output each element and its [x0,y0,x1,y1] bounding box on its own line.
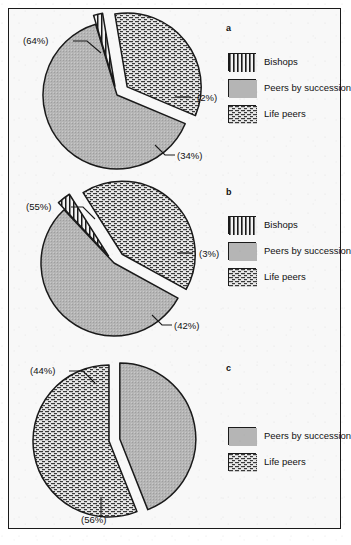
legend-item-life_peers[interactable]: Life peers [228,453,351,471]
swatch-bishops-icon [229,54,257,72]
swatch-peers_by_succession-icon [229,80,257,98]
legend-item-bishops[interactable]: Bishops [228,53,351,71]
chart-panel-a: a (64%) (2%) (34%) [9,9,342,181]
pie-chart-c [9,355,239,530]
callout-c-peers-by-succession: (44%) [30,366,55,376]
legend-swatch-peers_by_succession [228,242,256,260]
legend-item-life_peers[interactable]: Life peers [228,268,351,286]
legend-label-peers_by_succession: Peers by succession [264,246,351,256]
swatch-life_peers-icon [229,269,257,287]
legend-c: Peers by succession Life peers [228,427,351,471]
callout-a-life-peers: (34%) [177,151,202,161]
legend-item-peers_by_succession[interactable]: Peers by succession [228,242,351,260]
chart-panel-b: b (55%) (3%) (42%) [9,181,342,355]
legend-swatch-bishops [228,216,256,234]
legend-item-bishops[interactable]: Bishops [228,216,351,234]
figure-frame: a (64%) (2%) (34%) [8,8,341,529]
callout-b-peers-by-succession: (55%) [26,202,51,212]
swatch-peers_by_succession-icon [229,243,257,261]
swatch-bishops-icon [229,217,257,235]
legend-swatch-life_peers [228,453,256,471]
legend-item-peers_by_succession[interactable]: Peers by succession [228,79,351,97]
callout-b-life-peers: (42%) [174,321,199,331]
legend-label-life_peers: Life peers [264,457,306,467]
swatch-life_peers-icon [229,106,257,124]
legend-swatch-bishops [228,53,256,71]
legend-label-life_peers: Life peers [264,272,306,282]
legend-label-peers_by_succession: Peers by succession [264,83,351,93]
legend-label-life_peers: Life peers [264,109,306,119]
callout-b-bishops: (3%) [199,249,219,259]
legend-swatch-peers_by_succession [228,427,256,445]
legend-label-bishops: Bishops [264,57,298,67]
legend-item-life_peers[interactable]: Life peers [228,105,351,123]
legend-label-peers_by_succession: Peers by succession [264,431,351,441]
callout-a-peers-by-succession: (64%) [23,36,48,46]
legend-swatch-life_peers [228,105,256,123]
swatch-life_peers-icon [229,454,257,472]
legend-a: Bishops Peers by succession [228,53,351,123]
legend-item-peers_by_succession[interactable]: Peers by succession [228,427,351,445]
callout-c-life-peers: (56%) [81,515,106,525]
callout-a-bishops: (2%) [197,93,217,103]
swatch-peers_by_succession-icon [229,428,257,446]
pie-slice-peers_by_succession [120,363,196,510]
legend-swatch-peers_by_succession [228,79,256,97]
legend-label-bishops: Bishops [264,220,298,230]
legend-swatch-life_peers [228,268,256,286]
chart-panel-c: c (44%) (56%) Peers by successio [9,355,342,530]
legend-b: Bishops Peers by succession [228,216,351,286]
